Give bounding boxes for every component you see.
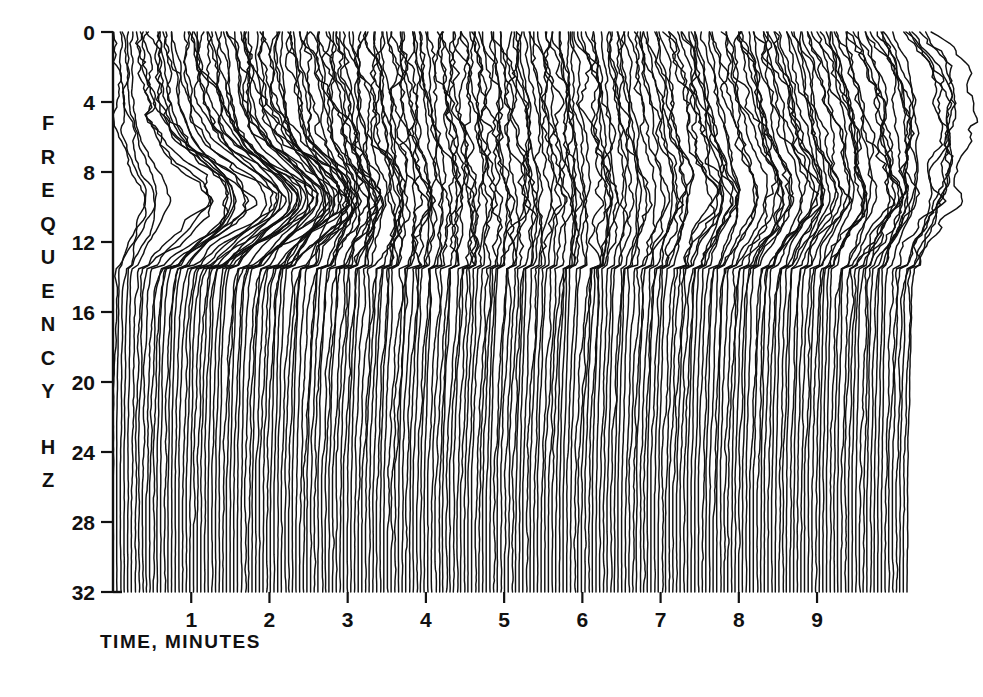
x-tick-label: 6 <box>577 608 589 631</box>
y-axis-title-letter: E <box>41 179 54 201</box>
y-axis-title-letter: F <box>42 112 54 134</box>
y-tick-label: 32 <box>72 581 95 604</box>
y-tick-label: 8 <box>83 161 95 184</box>
y-tick-label: 0 <box>83 21 95 44</box>
x-tick-label: 5 <box>498 608 510 631</box>
y-axis-title-letter: Y <box>41 380 55 402</box>
y-axis-title-letter: U <box>41 246 55 268</box>
y-axis-title-letter: N <box>41 313 55 335</box>
y-axis-title-letter: Z <box>42 469 54 491</box>
y-tick-label: 12 <box>72 231 95 254</box>
y-tick-label: 20 <box>72 371 95 394</box>
y-axis-title-letter: Q <box>40 213 56 235</box>
x-tick-label: 8 <box>733 608 745 631</box>
y-tick-label: 24 <box>72 441 96 464</box>
x-tick-label: 3 <box>342 608 354 631</box>
x-tick-label: 2 <box>264 608 276 631</box>
y-tick-label: 28 <box>72 511 96 534</box>
spectral-array-chart: 048121620242832 123456789 FREQUENCYHZ TI… <box>0 0 983 697</box>
y-tick-label: 4 <box>83 91 95 114</box>
y-axis-title-letter: C <box>41 347 55 369</box>
x-tick-label: 4 <box>420 608 432 631</box>
x-axis-title: TIME, MINUTES <box>100 631 261 652</box>
x-tick-label: 1 <box>185 608 197 631</box>
y-axis-title-letter: E <box>41 280 54 302</box>
y-tick-label: 16 <box>72 301 95 324</box>
x-tick-label: 7 <box>655 608 667 631</box>
figure-panel: 048121620242832 123456789 FREQUENCYHZ TI… <box>0 0 983 697</box>
x-tick-label: 9 <box>811 608 823 631</box>
y-axis-title-letter: H <box>41 436 55 458</box>
y-axis-title-letter: R <box>41 146 56 168</box>
